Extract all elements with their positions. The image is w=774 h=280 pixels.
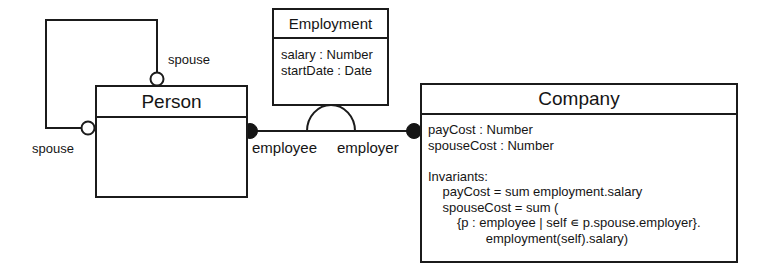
spouse-top-end-circle: [151, 73, 164, 86]
class-name-company: Company: [422, 85, 736, 115]
role-label-spouse-left: spouse: [32, 141, 74, 156]
class-attributes-person: [97, 118, 246, 196]
spouse-left-end-circle: [82, 122, 95, 135]
role-label-spouse-top: spouse: [168, 52, 210, 67]
class-name-employment: Employment: [274, 10, 387, 39]
class-box-employment[interactable]: Employment salary : Number startDate : D…: [272, 8, 389, 106]
role-label-employee: employee: [252, 139, 317, 156]
class-box-company[interactable]: Company payCost : Number spouseCost : Nu…: [420, 83, 738, 263]
association-class-connector-arc: [307, 105, 355, 131]
class-name-person: Person: [97, 87, 246, 118]
class-attributes-company: payCost : Number spouseCost : Number Inv…: [422, 115, 736, 261]
class-attributes-employment: salary : Number startDate : Date: [274, 39, 387, 104]
uml-class-diagram-canvas: Person Employment salary : Number startD…: [0, 0, 774, 280]
role-label-employer: employer: [337, 139, 399, 156]
class-box-person[interactable]: Person: [95, 85, 248, 198]
